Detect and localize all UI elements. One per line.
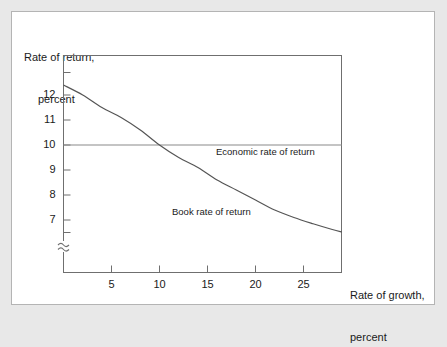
x-tick-marks [112, 266, 304, 273]
x-axis-title-line2: percent [350, 330, 425, 344]
y-tick-marks [64, 73, 71, 233]
plot-frame [63, 55, 342, 273]
book-rate-of-return-curve [64, 85, 342, 232]
axis-break-squiggle [58, 243, 69, 251]
